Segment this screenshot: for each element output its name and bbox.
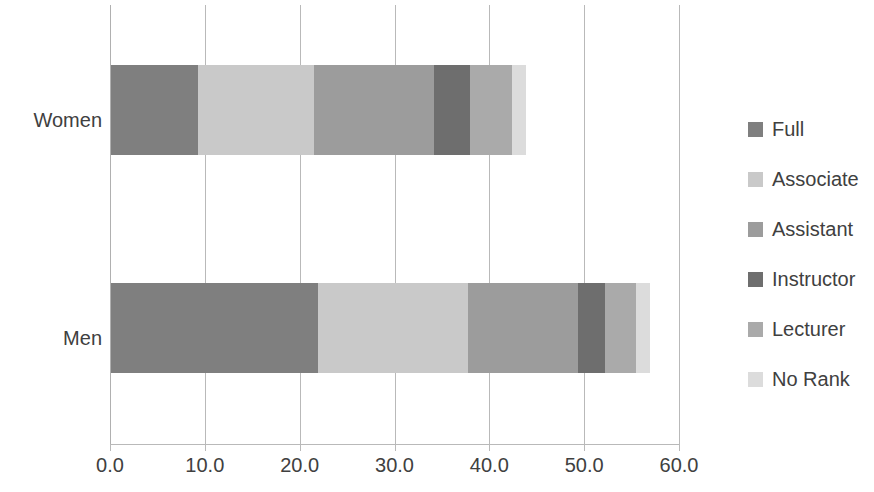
legend-item-associate[interactable]: Associate [748,154,874,204]
legend-swatch-full-icon [748,122,763,137]
legend-swatch-assistant-icon [748,222,763,237]
x-tick-label-60.0: 60.0 [639,455,719,475]
bar-segment-men-no-rank [636,283,649,373]
category-label-women: Women [2,110,102,130]
gridline-50.0 [584,5,585,445]
x-tick-label-50.0: 50.0 [544,455,624,475]
bar-segment-women-associate [198,65,314,155]
tick-mark-0.0 [110,444,111,451]
bar-segment-men-associate [318,283,468,373]
bar-segment-men-lecturer [605,283,636,373]
legend-item-full[interactable]: Full [748,104,874,154]
bar-men [111,283,650,373]
bar-segment-men-assistant [468,283,578,373]
x-tick-label-30.0: 30.0 [355,455,435,475]
chart-legend: FullAssociateAssistantInstructorLecturer… [748,104,874,404]
bar-segment-women-lecturer [470,65,512,155]
legend-item-no-rank[interactable]: No Rank [748,354,874,404]
bar-segment-men-instructor [578,283,606,373]
x-tick-label-10.0: 10.0 [165,455,245,475]
tick-mark-10.0 [205,444,206,451]
bar-segment-women-assistant [314,65,434,155]
legend-item-assistant[interactable]: Assistant [748,204,874,254]
bar-segment-women-no-rank [512,65,526,155]
x-tick-label-40.0: 40.0 [449,455,529,475]
bar-women [111,65,526,155]
legend-swatch-lecturer-icon [748,322,763,337]
x-tick-label-20.0: 20.0 [260,455,340,475]
tick-mark-50.0 [584,444,585,451]
tick-mark-30.0 [395,444,396,451]
tick-mark-20.0 [300,444,301,451]
tick-mark-40.0 [489,444,490,451]
legend-label: Associate [772,169,859,189]
legend-label: Instructor [772,269,855,289]
legend-label: No Rank [772,369,850,389]
bar-segment-men-full [111,283,318,373]
legend-item-instructor[interactable]: Instructor [748,254,874,304]
legend-swatch-instructor-icon [748,272,763,287]
bar-segment-women-full [111,65,198,155]
category-label-men: Men [2,328,102,348]
legend-swatch-no-rank-icon [748,372,763,387]
y-axis-category-labels: Women Men [0,0,102,492]
tick-mark-60.0 [679,444,680,451]
stacked-bar-chart: 0.010.020.030.040.050.060.0 Women Men Fu… [0,0,874,492]
legend-swatch-associate-icon [748,172,763,187]
bar-segment-women-instructor [434,65,470,155]
legend-label: Lecturer [772,319,845,339]
legend-label: Assistant [772,219,853,239]
legend-item-lecturer[interactable]: Lecturer [748,304,874,354]
gridline-60.0 [679,5,680,445]
legend-label: Full [772,119,804,139]
